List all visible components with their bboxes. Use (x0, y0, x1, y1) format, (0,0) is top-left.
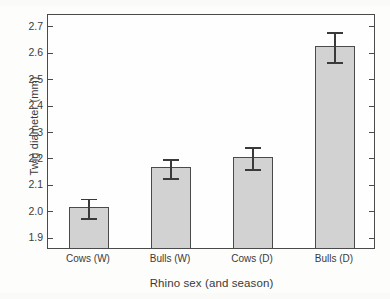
error-bar-cap-lower (163, 178, 179, 180)
y-tick-mark-left (48, 158, 53, 159)
error-bar-cap-lower (81, 218, 97, 220)
scan-artifact-bottom (0, 293, 390, 299)
y-tick-mark-right (369, 185, 374, 186)
x-tick-label: Cows (W) (66, 253, 110, 264)
y-tick-label: 2.7 (28, 20, 43, 32)
y-tick-mark-left (48, 238, 53, 239)
error-bar-cap-lower (327, 62, 343, 64)
y-tick-mark-right (369, 106, 374, 107)
plot-area: 1.92.02.12.22.32.42.52.62.7 (47, 14, 375, 249)
error-bar-cap-upper (163, 159, 179, 161)
y-tick-label: 2.6 (28, 46, 43, 58)
y-tick-mark-left (48, 185, 53, 186)
y-tick-label: 2.0 (28, 205, 43, 217)
y-tick-mark-right (369, 238, 374, 239)
bar-chart-figure: Twig diameter (mm) 1.92.02.12.22.32.42.5… (0, 0, 390, 299)
error-bar-cap-upper (327, 32, 343, 34)
error-bar-stem (334, 32, 336, 64)
x-tick-label: Bulls (W) (150, 253, 191, 264)
error-bar-cap-upper (81, 199, 97, 201)
y-tick-mark-right (369, 211, 374, 212)
y-tick-mark-left (48, 26, 53, 27)
y-tick-mark-right (369, 26, 374, 27)
y-tick-label: 1.9 (28, 231, 43, 243)
y-tick-label: 2.4 (28, 99, 43, 111)
error-bar-cap-upper (245, 147, 261, 149)
y-tick-label: 2.3 (28, 126, 43, 138)
y-tick-mark-left (48, 106, 53, 107)
y-tick-mark-right (369, 53, 374, 54)
error-bar-stem (88, 199, 90, 220)
x-tick-label: Bulls (D) (315, 253, 353, 264)
y-tick-mark-left (48, 211, 53, 212)
scan-artifact-top (0, 0, 390, 6)
y-tick-mark-right (369, 132, 374, 133)
y-tick-mark-right (369, 79, 374, 80)
error-bar-cap-lower (245, 169, 261, 171)
error-bar-stem (252, 147, 254, 171)
y-tick-label: 2.2 (28, 152, 43, 164)
x-axis-label: Rhino sex (and season) (47, 277, 376, 289)
y-tick-mark-left (48, 79, 53, 80)
y-tick-mark-left (48, 53, 53, 54)
error-bar-stem (170, 159, 172, 180)
y-tick-label: 2.5 (28, 73, 43, 85)
x-tick-label: Cows (D) (231, 253, 273, 264)
y-tick-mark-right (369, 158, 374, 159)
y-tick-mark-left (48, 132, 53, 133)
bar (315, 46, 355, 248)
y-tick-label: 2.1 (28, 178, 43, 190)
